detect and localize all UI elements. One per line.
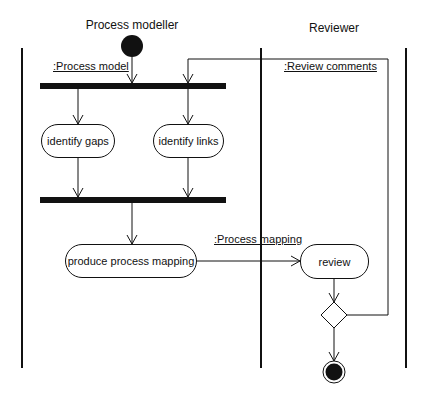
object-label-process-mapping: :Process mapping xyxy=(214,233,302,245)
swimlane-title-reviewer: Reviewer xyxy=(309,21,359,35)
activity-produce-process-mapping: produce process mapping xyxy=(65,244,197,278)
final-node-inner xyxy=(326,364,343,381)
decision-diamond xyxy=(321,302,347,328)
activity-identify-links: identify links xyxy=(153,124,224,158)
object-label-review-comments: :Review comments xyxy=(284,60,377,72)
fork-bar xyxy=(40,83,226,89)
activity-diagram: Process modeller Reviewer :Process model… xyxy=(0,0,425,402)
activity-identify-gaps: identify gaps xyxy=(41,124,115,158)
activity-review: review xyxy=(300,244,369,279)
swimlane-title-process-modeller: Process modeller xyxy=(86,18,179,32)
join-bar xyxy=(40,197,226,203)
object-label-process-model: :Process model xyxy=(53,60,129,72)
initial-node xyxy=(121,35,143,57)
